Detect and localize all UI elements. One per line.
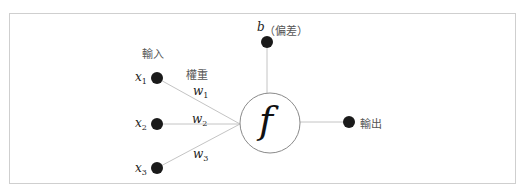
output-label: 輸出 bbox=[360, 115, 382, 131]
input-x3-label: x3 bbox=[135, 161, 147, 177]
input-label: 輸入 bbox=[142, 45, 164, 61]
weight-w3-label: w3 bbox=[193, 147, 208, 163]
input-node-x3 bbox=[151, 162, 163, 174]
input-x2-label: x2 bbox=[135, 116, 147, 132]
input-x1-label: x1 bbox=[135, 70, 147, 86]
weights-label: 權重 bbox=[186, 66, 208, 82]
activation-function-label: f bbox=[259, 98, 273, 142]
input-node-x2 bbox=[151, 118, 163, 130]
weight-w1-label: w1 bbox=[193, 84, 208, 100]
bias-text: （偏差） bbox=[264, 22, 308, 38]
input-node-x1 bbox=[151, 72, 163, 84]
output-node bbox=[343, 116, 355, 128]
weight-w2-label: w2 bbox=[192, 112, 207, 128]
